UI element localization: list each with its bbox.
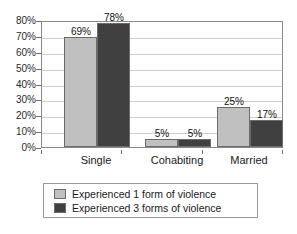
y-tick-label-60: 60% [0, 48, 36, 58]
bar-label-single-1form: 69% [59, 26, 103, 37]
y-tick-label-10: 10% [0, 127, 36, 137]
bar-group-single: 69% 78% [64, 20, 130, 147]
bar-group-cohabiting: 5% 5% [145, 20, 211, 147]
bar-married-3forms [250, 120, 283, 147]
legend-label-1form: Experienced 1 form of violence [72, 188, 216, 200]
legend-swatch-3forms [54, 203, 66, 213]
x-axis: Single Cohabiting Married [41, 150, 283, 170]
legend-entry-3forms: Experienced 3 forms of violence [54, 201, 257, 215]
y-tick-label-40: 40% [0, 80, 36, 90]
y-tick-label-30: 30% [0, 95, 36, 105]
bar-label-cohabiting-3forms: 5% [173, 128, 217, 139]
grouped-bar-chart: 80% 70% 60% 50% 40% 30% 20% 10% 0% 69% 7… [0, 0, 297, 234]
legend: Experienced 1 form of violence Experienc… [43, 183, 258, 218]
y-tick-label-50: 50% [0, 64, 36, 74]
y-tick-label-20: 20% [0, 111, 36, 121]
y-tick-mark-0 [36, 148, 41, 149]
y-tick-label-80: 80% [0, 16, 36, 26]
bar-cohabiting-1form [145, 139, 178, 147]
y-axis: 80% 70% 60% 50% 40% 30% 20% 10% 0% [0, 21, 36, 148]
bar-label-married-3forms: 17% [245, 109, 289, 120]
legend-entry-1form: Experienced 1 form of violence [54, 187, 257, 201]
bar-single-1form [64, 37, 97, 147]
bar-label-single-3forms: 78% [92, 12, 136, 23]
x-tick-label-married: Married [199, 154, 297, 166]
bar-cohabiting-3forms [178, 139, 211, 147]
plot-area: 69% 78% 5% 5% 25% 17% [41, 21, 283, 148]
legend-swatch-1form [54, 189, 66, 199]
bar-group-married: 25% 17% [217, 20, 283, 147]
y-tick-label-70: 70% [0, 32, 36, 42]
bar-label-married-1form: 25% [212, 96, 256, 107]
bar-single-3forms [97, 23, 130, 147]
x-tick-mark-start [41, 150, 42, 154]
legend-label-3forms: Experienced 3 forms of violence [72, 202, 221, 214]
y-tick-label-0: 0% [0, 143, 36, 153]
